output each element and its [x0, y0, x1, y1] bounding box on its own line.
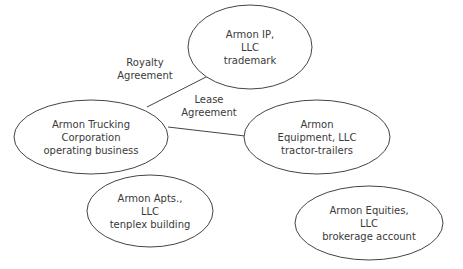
- nodes-layer: Armon IP,LLCtrademarkArmon TruckingCorpo…: [14, 5, 443, 260]
- node-label: Armon IP,: [226, 29, 274, 40]
- node-label: Armon Apts.,: [118, 193, 183, 204]
- node-label: tractor-trailers: [281, 145, 353, 156]
- node-label: Armon Trucking: [52, 119, 130, 130]
- node-equities: Armon Equities,LLCbrokerage account: [295, 186, 443, 260]
- node-ip: Armon IP,LLCtrademark: [188, 5, 312, 89]
- edge-label: Agreement: [117, 70, 173, 81]
- edge-label: Lease: [194, 94, 223, 105]
- node-label: Armon Equities,: [329, 205, 408, 216]
- edge-label: Royalty: [126, 57, 163, 68]
- node-label: Equipment, LLC: [278, 132, 357, 143]
- node-label: Corporation: [61, 132, 120, 143]
- node-label: LLC: [241, 42, 259, 53]
- node-equipment: ArmonEquipment, LLCtractor-trailers: [244, 100, 390, 174]
- node-label: trademark: [224, 55, 277, 66]
- node-label: tenplex building: [110, 219, 191, 230]
- node-apts: Armon Apts.,LLCtenplex building: [87, 175, 213, 247]
- entity-diagram: RoyaltyAgreementLeaseAgreement Armon IP,…: [0, 0, 463, 269]
- node-trucking: Armon TruckingCorporationoperating busin…: [14, 100, 168, 174]
- node-label: operating business: [43, 145, 138, 156]
- node-label: brokerage account: [322, 231, 416, 242]
- edge-trucking-equipment: [168, 127, 245, 136]
- node-label: Armon: [301, 119, 334, 130]
- node-label: LLC: [141, 206, 159, 217]
- node-label: LLC: [360, 218, 378, 229]
- edge-label: Agreement: [181, 107, 237, 118]
